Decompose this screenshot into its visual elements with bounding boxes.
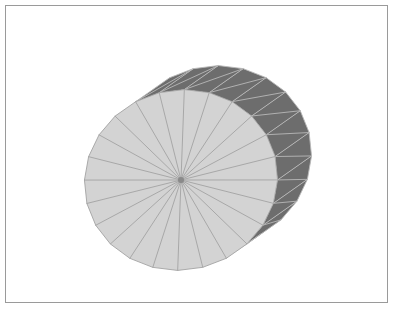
cylinder-3d-render: [0, 0, 397, 314]
render-viewport: [0, 0, 397, 314]
